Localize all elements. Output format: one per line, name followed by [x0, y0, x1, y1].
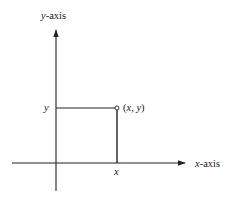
x-tick-label: x: [113, 166, 119, 177]
y-axis-label: y-axis: [40, 10, 66, 21]
point-marker: [115, 106, 119, 110]
coordinate-diagram: y-axis x-axis (x, y) y x: [0, 0, 236, 197]
point-label: (x, y): [123, 102, 145, 114]
x-axis-label: x-axis: [194, 158, 220, 169]
y-tick-label: y: [43, 102, 49, 113]
